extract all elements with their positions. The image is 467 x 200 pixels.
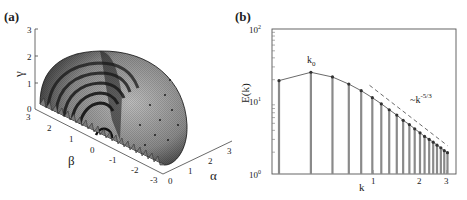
panel-a-label: (a) [4,9,19,24]
beta-tick-neg3: -3 [150,175,158,185]
gamma-tick-2: 2 [27,52,32,62]
panel-a-surface-plot: (a) 3 2 1 0 γ 3 2 1 0 -1 -2 -3 β [0,0,233,200]
data-point [277,79,280,82]
gamma-axis-label: γ [11,71,26,78]
data-point [402,119,405,122]
beta-tick-neg2: -2 [131,165,139,175]
data-point [360,89,363,92]
energy-spectrum-svg: (b) 102 101 100 E(k) 1 2 3 k k0 ~k-5/3 [233,0,467,200]
gamma-axis: 3 2 1 0 γ [11,25,38,114]
y-axis-label: E(k) [239,83,252,103]
beta-tick-0: 0 [90,145,95,155]
data-point [428,138,431,141]
data-point [388,108,391,111]
data-point [408,123,411,126]
y-tick-1: 100 [249,169,261,180]
y-axis: 102 101 100 E(k) [239,24,275,180]
slope-annotation: ~k-5/3 [410,92,432,105]
data-point [413,127,416,130]
data-point [331,75,334,78]
data-point [435,144,438,147]
alpha-tick-1: 1 [188,166,193,176]
data-point [309,71,312,74]
gamma-tick-1: 1 [27,79,32,89]
alpha-tick-3: 3 [227,146,232,156]
alpha-tick-0: 0 [168,176,173,186]
x-axis-label: k [359,181,365,193]
data-point [395,113,398,116]
data-point [443,149,446,152]
data-point [423,135,426,138]
beta-tick-2: 2 [47,123,52,133]
data-point [418,131,421,134]
data-point [432,141,435,144]
spectrum-stems [279,72,447,174]
beta-tick-1: 1 [69,134,74,144]
beta-tick-3: 3 [26,112,31,122]
y-minor-ticks [272,32,275,152]
x-tick-1: 1 [371,176,376,186]
spectrum-markers [277,71,449,155]
x-tick-2: 2 [417,176,422,186]
panel-b-energy-spectrum: (b) 102 101 100 E(k) 1 2 3 k k0 ~k-5/3 [233,0,467,200]
surface-plot-svg: (a) 3 2 1 0 γ 3 2 1 0 -1 -2 -3 β [0,0,233,200]
alpha-tick-2: 2 [208,156,213,166]
k0-annotation: k0 [307,54,316,68]
alpha-axis-label: α [210,168,217,183]
beta-tick-neg1: -1 [109,155,117,165]
panel-b-label: (b) [235,9,251,24]
x-tick-3: 3 [444,176,449,186]
data-point [446,151,449,154]
data-point [439,146,442,149]
data-point [380,102,383,105]
beta-axis-label: β [68,153,75,168]
y-tick-100: 102 [249,24,261,35]
data-point [347,82,350,85]
gamma-tick-3: 3 [27,25,32,35]
data-point [371,96,374,99]
spectrum-line [279,72,448,152]
surface-mesh [40,51,187,165]
